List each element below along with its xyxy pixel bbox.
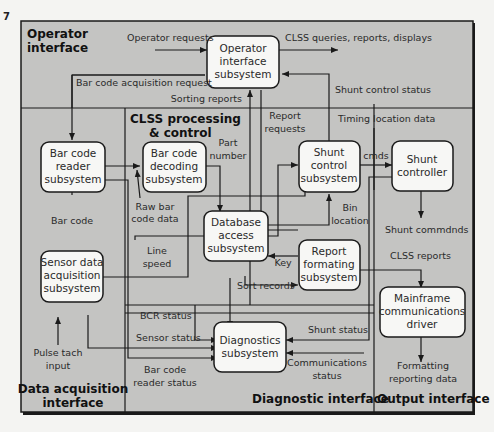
label-clss-queries: CLSS queries, reports, displays xyxy=(285,32,432,43)
svg-text:subsystem: subsystem xyxy=(301,271,358,283)
region-diagnostic-interface: Diagnostic interface xyxy=(252,392,389,406)
svg-text:Part: Part xyxy=(219,137,238,148)
svg-text:number: number xyxy=(209,150,246,161)
svg-text:subsystem: subsystem xyxy=(301,172,358,184)
svg-text:Mainframe: Mainframe xyxy=(394,292,450,304)
label-shunt-status: Shunt status xyxy=(308,324,368,335)
label-clss-reports: CLSS reports xyxy=(390,250,451,261)
svg-text:control: control xyxy=(311,159,347,171)
label-sort-records: Sort records xyxy=(237,280,295,291)
svg-text:Diagnostics: Diagnostics xyxy=(220,334,281,346)
svg-text:formating: formating xyxy=(303,258,354,270)
svg-text:controller: controller xyxy=(397,166,448,178)
svg-text:speed: speed xyxy=(143,258,172,269)
svg-text:CLSS processing: CLSS processing xyxy=(130,112,241,126)
clss-architecture-diagram: 7 Operator interface CLSS processing & c… xyxy=(0,0,494,432)
svg-text:reporting data: reporting data xyxy=(389,373,457,384)
svg-text:status: status xyxy=(312,370,341,381)
svg-text:decoding: decoding xyxy=(150,160,198,172)
svg-text:Sensor data: Sensor data xyxy=(41,256,104,268)
region-operator-interface: Operator interface xyxy=(27,27,88,55)
label-shunt-control-status: Shunt control status xyxy=(335,84,431,95)
svg-text:Raw bar: Raw bar xyxy=(136,201,175,212)
svg-text:Report: Report xyxy=(269,110,301,121)
label-raw-bar-code-data: Raw bar code data xyxy=(131,201,178,224)
shunt-controller-box: Shunt controller xyxy=(392,141,453,191)
svg-text:Shunt: Shunt xyxy=(407,153,438,165)
svg-text:Bar code: Bar code xyxy=(144,364,186,375)
svg-text:access: access xyxy=(218,229,253,241)
svg-text:Pulse tach: Pulse tach xyxy=(34,347,83,358)
svg-text:Report: Report xyxy=(312,245,347,257)
bar-code-reader-subsystem-box: Bar code reader subsystem xyxy=(41,142,105,192)
svg-text:driver: driver xyxy=(407,318,439,330)
svg-text:subsystem: subsystem xyxy=(146,173,203,185)
figure-mark: 7 xyxy=(3,11,10,22)
svg-text:communications: communications xyxy=(379,305,466,317)
label-sorting-reports: Sorting reports xyxy=(171,93,242,104)
svg-text:requests: requests xyxy=(264,123,305,134)
svg-text:subsystem: subsystem xyxy=(45,173,102,185)
shunt-control-subsystem-box: Shunt control subsystem xyxy=(299,141,360,192)
region-output-interface: Output interface xyxy=(377,392,490,406)
svg-text:Communications: Communications xyxy=(287,357,367,368)
svg-text:interface: interface xyxy=(27,41,88,55)
operator-interface-subsystem-box: Operator interface subsystem xyxy=(207,36,279,88)
svg-text:subsystem: subsystem xyxy=(215,68,272,80)
svg-text:Database: Database xyxy=(211,216,261,228)
bar-code-decoding-subsystem-box: Bar code decoding subsystem xyxy=(143,142,206,192)
svg-text:Shunt: Shunt xyxy=(314,146,345,158)
database-access-subsystem-box: Database access subsystem xyxy=(204,211,268,261)
mainframe-communications-driver-box: Mainframe communications driver xyxy=(379,287,466,337)
svg-text:input: input xyxy=(46,360,71,371)
svg-text:Line: Line xyxy=(147,245,167,256)
svg-text:Bar code: Bar code xyxy=(151,147,198,159)
svg-text:code data: code data xyxy=(131,213,178,224)
svg-text:& control: & control xyxy=(149,126,212,140)
svg-text:Bar code: Bar code xyxy=(50,147,97,159)
svg-text:subsystem: subsystem xyxy=(44,282,101,294)
svg-text:location: location xyxy=(331,215,369,226)
label-bar-code-acq-request: Bar code acquisition request xyxy=(76,77,212,88)
svg-text:Operator: Operator xyxy=(220,42,268,54)
svg-text:Operator: Operator xyxy=(27,27,88,41)
svg-text:reader: reader xyxy=(56,160,91,172)
svg-text:Bin: Bin xyxy=(342,202,357,213)
label-timing-location: Timing location data xyxy=(337,113,435,124)
sensor-data-acquisition-subsystem-box: Sensor data acquisition subsystem xyxy=(41,251,104,302)
label-cmds: cmds xyxy=(363,150,389,161)
label-bar-code: Bar code xyxy=(51,215,93,226)
report-formating-subsystem-box: Report formating subsystem xyxy=(299,240,360,290)
svg-text:subsystem: subsystem xyxy=(208,242,265,254)
label-sensor-status: Sensor status xyxy=(136,332,201,343)
label-shunt-commands: Shunt commdnds xyxy=(385,224,468,235)
svg-text:acquisition: acquisition xyxy=(44,269,101,281)
svg-text:subsystem: subsystem xyxy=(222,347,279,359)
diagnostics-subsystem-box: Diagnostics subsystem xyxy=(214,322,286,372)
label-key: Key xyxy=(274,257,292,268)
svg-text:Data acquisition: Data acquisition xyxy=(18,382,128,396)
svg-text:interface: interface xyxy=(220,55,267,67)
svg-text:Formatting: Formatting xyxy=(397,360,449,371)
svg-text:reader status: reader status xyxy=(133,377,196,388)
label-bcr-status: BCR status xyxy=(140,310,192,321)
svg-text:interface: interface xyxy=(42,396,103,410)
label-operator-requests: Operator requests xyxy=(127,32,214,43)
